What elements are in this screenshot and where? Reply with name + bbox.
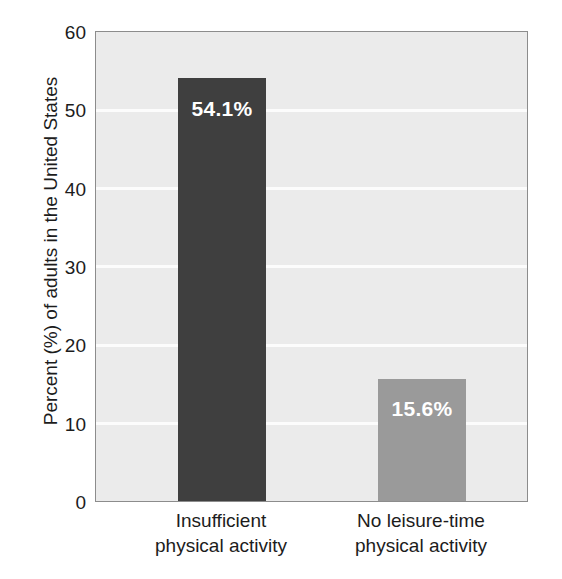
y-tick-label-60: 60 xyxy=(36,23,86,42)
x-label-line-1: Insufficient xyxy=(121,508,321,533)
x-label-line-1: No leisure-time xyxy=(321,508,521,533)
bar-value-label-insufficient: 54.1% xyxy=(178,97,266,121)
gridline-20 xyxy=(96,344,527,347)
y-axis-tick-labels: 60 50 40 30 20 10 0 xyxy=(36,32,86,502)
y-tick-label-40: 40 xyxy=(36,179,86,198)
y-tick-label-0: 0 xyxy=(36,493,86,512)
bar-no-leisure-time-physical-activity[interactable]: 15.6% xyxy=(378,379,466,501)
y-tick-label-10: 10 xyxy=(36,414,86,433)
x-label-line-2: physical activity xyxy=(321,533,521,558)
x-label-no-leisure-time-physical-activity: No leisure-time physical activity xyxy=(321,508,521,558)
gridline-50 xyxy=(96,109,527,112)
y-tick-label-20: 20 xyxy=(36,336,86,355)
y-tick-label-50: 50 xyxy=(36,101,86,120)
bar-value-label-no-leisure-time: 15.6% xyxy=(378,397,466,421)
gridline-40 xyxy=(96,187,527,190)
y-tick-label-30: 30 xyxy=(36,258,86,277)
bar-chart-figure: Percent (%) of adults in the United Stat… xyxy=(0,0,562,579)
bar-insufficient-physical-activity[interactable]: 54.1% xyxy=(178,78,266,501)
gridline-30 xyxy=(96,265,527,268)
x-label-insufficient-physical-activity: Insufficient physical activity xyxy=(121,508,321,558)
x-axis-category-labels: Insufficient physical activity No leisur… xyxy=(95,508,528,568)
plot-area: 54.1% 15.6% xyxy=(95,31,528,502)
x-label-line-2: physical activity xyxy=(121,533,321,558)
